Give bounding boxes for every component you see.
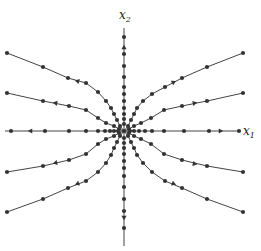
trajectory-dot: [66, 186, 70, 190]
trajectory-dot: [122, 117, 126, 121]
trajectory-dot: [122, 185, 126, 189]
trajectory-dot: [96, 170, 100, 174]
trajectory-dot: [122, 92, 126, 96]
trajectory-dot: [84, 108, 88, 112]
trajectory-dot: [141, 161, 145, 165]
trajectory-dot: [84, 152, 88, 156]
trajectory-dot: [139, 137, 143, 141]
trajectory-dot: [180, 76, 184, 80]
trajectory-dot: [129, 118, 133, 122]
trajectory-dot: [104, 161, 108, 165]
trajectory-dot: [180, 186, 184, 190]
trajectory-dot: [162, 152, 166, 156]
arrow-left-icon: [53, 160, 58, 165]
trajectory-dot: [122, 75, 126, 79]
trajectory-dot: [108, 129, 112, 133]
trajectory-dot: [137, 129, 141, 133]
trajectory-dot: [132, 124, 136, 128]
trajectory-dot: [112, 129, 116, 133]
trajectory-dot: [237, 129, 241, 133]
trajectory-dot: [117, 127, 121, 131]
trajectory-dot: [241, 210, 245, 214]
trajectory-dot: [112, 146, 116, 150]
trajectory-dot: [149, 116, 153, 120]
trajectory-dot: [96, 116, 100, 120]
trajectory-dot: [122, 106, 126, 110]
trajectory-dot: [122, 136, 126, 140]
trajectory-dot: [122, 209, 126, 213]
trajectory-dot: [132, 112, 136, 116]
trajectory-dot: [109, 153, 113, 157]
phase-portrait: x2 x1: [0, 0, 261, 251]
trajectory-dot: [205, 164, 209, 168]
trajectory-dot: [118, 134, 122, 138]
trajectory-dot: [41, 65, 45, 69]
trajectory-dot: [109, 106, 113, 110]
trajectory-dot: [150, 129, 154, 133]
trajectory-dot: [41, 197, 45, 201]
trajectory-dot: [122, 159, 126, 163]
trajectory-dot: [84, 81, 88, 85]
trajectory-dot: [241, 51, 245, 55]
trajectory-dot: [67, 158, 71, 162]
trajectory-dot: [150, 170, 154, 174]
trajectory-dot: [139, 121, 143, 125]
origin-dot: [122, 129, 126, 133]
trajectory-dot: [9, 129, 13, 133]
trajectory-dot: [127, 127, 131, 131]
trajectory-dot: [115, 118, 119, 122]
arrow-right-icon: [171, 181, 176, 186]
trajectory-dot: [122, 152, 126, 156]
trajectory-dot: [122, 226, 126, 230]
trajectory-dot: [205, 197, 209, 201]
trajectory-dot: [135, 153, 139, 157]
trajectory-dot: [104, 99, 108, 103]
trajectory-dot: [122, 64, 126, 68]
trajectory-lower-left-outer: [7, 131, 124, 212]
trajectory-dot: [115, 140, 119, 144]
x2-axis-label: x2: [119, 8, 131, 24]
trajectory-dot: [41, 164, 45, 168]
trajectory-dot: [122, 166, 126, 170]
trajectory-dot: [41, 99, 45, 103]
trajectory-dots: [5, 35, 245, 230]
trajectory-dot: [135, 106, 139, 110]
trajectory-dot: [143, 129, 147, 133]
trajectory-dot: [96, 129, 100, 133]
trajectory-dot: [122, 122, 126, 126]
trajectory-dot: [112, 112, 116, 116]
trajectory-dot: [241, 170, 245, 174]
trajectory-upper-left-inner: [7, 93, 124, 131]
trajectory-dot: [205, 65, 209, 69]
trajectory-dot: [149, 142, 153, 146]
arrow-up-icon: [121, 45, 126, 50]
trajectory-dot: [66, 76, 70, 80]
trajectory-dot: [129, 140, 133, 144]
trajectory-dot: [163, 179, 167, 183]
arrow-left-icon: [28, 128, 33, 133]
trajectory-dot: [122, 174, 126, 178]
trajectory-dot: [122, 52, 126, 56]
x1-axis-label: x1: [243, 124, 255, 140]
trajectory-lower-right-outer: [124, 131, 243, 212]
trajectory-dot: [182, 129, 186, 133]
trajectory-dot: [132, 134, 136, 138]
trajectory-dot: [67, 104, 71, 108]
trajectory-dot: [205, 99, 209, 103]
trajectory-dot: [122, 141, 126, 145]
trajectory-dot: [162, 129, 166, 133]
trajectory-dot: [132, 129, 136, 133]
trajectory-upper-right-inner: [124, 93, 243, 131]
trajectory-upper-right-outer: [124, 53, 243, 131]
trajectory-dot: [104, 137, 108, 141]
trajectory-dot: [122, 85, 126, 89]
trajectory-dot: [141, 99, 145, 103]
trajectory-dot: [132, 146, 136, 150]
trajectory-dot: [84, 179, 88, 183]
trajectory-dot: [126, 134, 130, 138]
trajectory-dot: [96, 90, 100, 94]
trajectory-dot: [180, 158, 184, 162]
trajectory-dot: [5, 51, 9, 55]
trajectory-dot: [84, 129, 88, 133]
trajectory-dot: [104, 121, 108, 125]
